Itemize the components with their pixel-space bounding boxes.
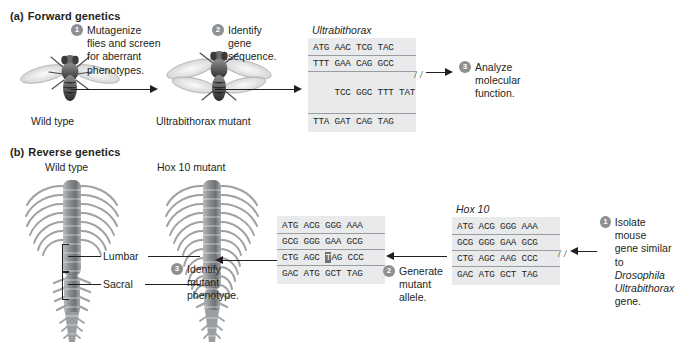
panel-b-step-3-text: Identify mutant phenotype.: [187, 263, 239, 303]
panel-b-wild-type-label: Wild type: [45, 161, 88, 175]
panel-b-step-3: 3 Identify mutant phenotype.: [171, 263, 257, 303]
step-badge-1: 1: [600, 216, 611, 228]
sequence-line: GCG GGG GAA GCG: [277, 234, 385, 250]
panel-a-label: (a): [10, 10, 24, 22]
panel-a-step-3: 3 Analyze molecular function.: [459, 61, 539, 101]
sequence-line: TTT GAA CAG GCC: [308, 56, 416, 72]
panel-b-step-1-text: Isolate mouse gene similar to Drosophila…: [615, 216, 676, 308]
panel-a-arrow-1: [71, 85, 159, 94]
panel-b-title-text: Reverse genetics: [28, 146, 120, 158]
sequence-line: ATG AAC TCG TAC: [308, 40, 416, 56]
sacral-bracket-left: [62, 272, 69, 300]
panel-a-step-1: 1 Mutagenize flies and screen for aberra…: [71, 24, 167, 77]
sequence-line: TTA GAT CAG TAG: [308, 114, 416, 129]
sequence-line-mutated: CTG AGC TAG CCC: [277, 250, 385, 266]
region-label-lumbar: Lumbar: [103, 250, 139, 262]
step-badge-2: 2: [212, 24, 224, 36]
panel-b-arrow-isolate-gene: [570, 247, 598, 256]
panel-a-title-text: Forward genetics: [28, 10, 121, 22]
panel-a-step-2-text: Identify gene sequence.: [228, 24, 276, 64]
step-badge-2: 2: [383, 265, 395, 277]
hox10-wildtype-sequence-box: ATG ACG GGG AAA GCG GGG GAA GCG CTG AGC …: [452, 217, 560, 285]
panel-a-step-2: 2 Identify gene sequence.: [212, 24, 290, 64]
panel-b-mutant-label: Hox 10 mutant: [157, 161, 225, 175]
sequence-line: CTG AGC AAG CCC: [452, 251, 560, 267]
hox10-mutant-sequence-box: ATG ACG GGG AAA GCG GGG GAA GCG CTG AGC …: [277, 216, 385, 284]
panel-a-arrow-3: [426, 68, 454, 77]
sequence-line: GCG GGG GAA GCG: [452, 235, 560, 251]
step-badge-3: 3: [171, 263, 183, 275]
panel-a-step-3-text: Analyze molecular function.: [475, 61, 521, 101]
panel-b-step-1: 1 Isolate mouse gene similar to Drosophi…: [600, 216, 676, 308]
panel-b-label: (b): [10, 146, 24, 158]
sequence-break-mark-b: / /: [558, 247, 567, 259]
sequence-line: GAC ATG GCT TAG: [277, 266, 385, 281]
ultrabithorax-sequence-box: ATG AAC TCG TAC TTT GAA CAG GCC TCC GGC …: [308, 38, 416, 132]
sequence-line: TCC GGC TTT TAT: [308, 72, 416, 114]
sacral-leader-left: [68, 284, 101, 285]
panel-b-arrow-to-phenotype: [215, 256, 277, 265]
region-label-sacral: Sacral: [103, 278, 133, 290]
panel-a-step-1-text: Mutagenize flies and screen for aberrant…: [87, 24, 161, 77]
sequence-line: ATG ACG GGG AAA: [277, 218, 385, 234]
panel-a-title: (a)Forward genetics: [10, 10, 120, 22]
step-badge-3: 3: [459, 61, 471, 73]
panel-b-title: (b)Reverse genetics: [10, 146, 120, 158]
step-badge-1: 1: [71, 24, 83, 36]
sequence-line: GAC ATG GCT TAG: [452, 267, 560, 282]
panel-b-step-2: 2 Generate mutant allele.: [383, 265, 457, 305]
panel-b-arrow-generate-allele: [386, 252, 448, 261]
ultrabithorax-sequence-label: Ultrabithorax: [312, 24, 372, 36]
sequence-line: ATG ACG GGG AAA: [452, 219, 560, 235]
panel-a-mutant-label: Ultrabithorax mutant: [156, 115, 251, 129]
lumbar-leader-right: [148, 256, 200, 257]
panel-b-step-2-text: Generate mutant allele.: [399, 265, 443, 305]
panel-a-wild-type-label: Wild type: [31, 115, 74, 129]
panel-a-arrow-2: [215, 85, 303, 94]
lumbar-leader-left: [68, 256, 101, 257]
sequence-break-mark-a: / /: [414, 68, 423, 80]
wild-type-skeleton-illustration: [18, 178, 126, 346]
hox10-sequence-label: Hox 10: [456, 203, 489, 215]
lumbar-bracket-left: [62, 244, 69, 272]
